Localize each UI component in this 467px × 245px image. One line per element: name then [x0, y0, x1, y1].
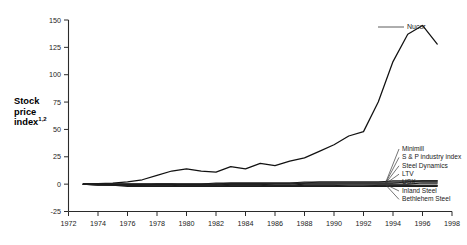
x-tick-label: 1980 [179, 219, 195, 228]
y-tick-label: 25 [53, 152, 61, 161]
legend-group: MinimillS & P industry indexSteel Dynami… [385, 145, 462, 202]
x-tick-label: 1984 [238, 219, 254, 228]
y-tick-label: 75 [53, 98, 61, 107]
legend-label: Bethlehem Steel [402, 195, 451, 202]
x-tick-label: 1974 [90, 219, 106, 228]
legend-label: S & P industry index [402, 153, 462, 161]
chart-container: Stock price index1,2 -250255075100125150… [0, 0, 467, 245]
x-tick-label: 1998 [444, 219, 460, 228]
y-axis-tick-labels: -250255075100125150 [49, 16, 61, 217]
nucor-callout: Nucor [378, 23, 426, 30]
legend-label: USX [402, 178, 416, 185]
y-tick-label: 50 [53, 125, 61, 134]
chart-plot: -250255075100125150 19721974197619781980… [0, 0, 467, 245]
nucor-callout-label: Nucor [407, 23, 426, 30]
x-tick-label: 1996 [415, 219, 431, 228]
data-series-group [83, 25, 437, 186]
y-tick-label: 100 [49, 70, 61, 79]
x-tick-label: 1990 [326, 219, 342, 228]
y-tick-label: 150 [49, 16, 61, 25]
legend-leader-line [385, 157, 399, 184]
x-tick-label: 1986 [267, 219, 283, 228]
series-line-nucor [83, 25, 437, 184]
legend-label: Inland Steel [402, 187, 437, 194]
x-axis-tick-labels: 1972197419761978198019821984198619881990… [61, 219, 461, 228]
x-tick-label: 1976 [120, 219, 136, 228]
y-tick-label: 125 [49, 43, 61, 52]
x-tick-label: 1978 [149, 219, 165, 228]
legend-label: LTV [402, 170, 414, 177]
y-axis: -250255075100125150 [49, 16, 69, 217]
x-tick-label: 1982 [208, 219, 224, 228]
y-tick-label: 0 [57, 180, 61, 189]
x-tick-label: 1994 [385, 219, 401, 228]
x-axis: 1972197419761978198019821984198619881990… [61, 212, 461, 229]
legend-label: Minimill [402, 145, 425, 152]
x-tick-label: 1988 [297, 219, 313, 228]
y-tick-label: -25 [51, 207, 61, 216]
legend-label: Steel Dynamics [402, 162, 449, 170]
x-tick-label: 1972 [61, 219, 77, 228]
x-tick-label: 1992 [356, 219, 372, 228]
y-axis-ticks [64, 20, 69, 212]
x-axis-ticks [69, 212, 453, 217]
